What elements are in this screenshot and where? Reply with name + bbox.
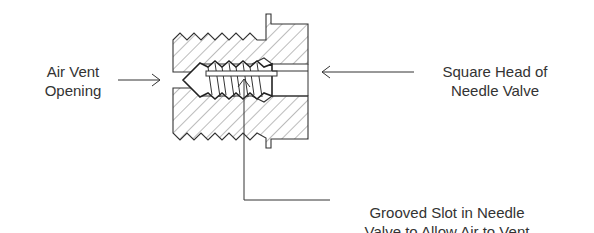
air-vent-arrow — [118, 74, 160, 86]
needle-valve — [183, 61, 308, 99]
square-head-label-line1: Square Head of — [420, 62, 570, 81]
air-vent-label-line1: Air Vent — [28, 62, 118, 81]
air-vent-label: Air Vent Opening — [28, 62, 118, 100]
needle-valve-diagram — [0, 0, 594, 233]
square-head-label-line2: Needle Valve — [420, 81, 570, 100]
grooved-slot-label-line1: Grooved Slot in Needle — [322, 203, 572, 222]
grooved-slot-label: Grooved Slot in Needle Valve to Allow Ai… — [322, 203, 572, 233]
square-head-label: Square Head of Needle Valve — [420, 62, 570, 100]
air-vent-label-line2: Opening — [28, 81, 118, 100]
grooved-slot-label-line2: Valve to Allow Air to Vent — [322, 222, 572, 233]
square-head-arrow — [322, 66, 414, 78]
square-head — [272, 64, 308, 96]
